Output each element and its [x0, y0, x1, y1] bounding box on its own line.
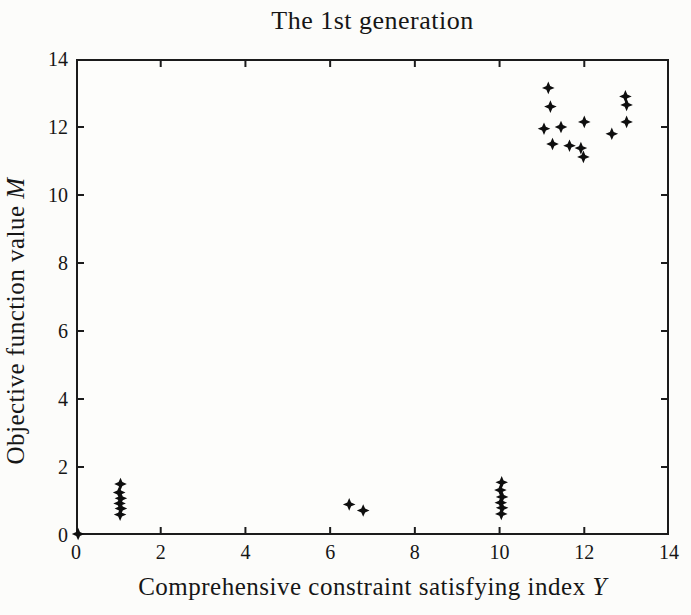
scatter-point [620, 116, 633, 129]
scatter-point [620, 99, 633, 112]
y-tick-label: 2 [28, 456, 68, 478]
scatter-point [563, 139, 576, 152]
scatter-point [343, 498, 356, 511]
chart-title: The 1st generation [76, 6, 669, 36]
x-tick-label: 10 [480, 541, 520, 563]
scatter-point [606, 128, 619, 141]
y-tick-label: 4 [28, 388, 68, 410]
scatter-point [578, 116, 591, 129]
scatter-point [114, 478, 127, 491]
x-axis-variable: Y [592, 573, 606, 600]
x-tick-label: 4 [225, 541, 265, 563]
y-axis-variable: M [2, 177, 29, 198]
scatter-point [357, 504, 370, 517]
scatter-point [495, 508, 508, 521]
plot-area [76, 59, 669, 535]
figure: The 1st generation Objective function va… [0, 0, 691, 615]
y-tick-label: 8 [28, 252, 68, 274]
scatter-point [542, 82, 555, 95]
scatter-point [619, 90, 632, 103]
y-tick-label: 6 [28, 320, 68, 342]
x-tick-label: 14 [649, 541, 689, 563]
y-tick-label: 0 [28, 524, 68, 546]
scatter-point [494, 484, 507, 497]
scatter-point [495, 476, 508, 489]
scatter-point [555, 121, 568, 134]
x-axis-label: Comprehensive constraint satisfying inde… [76, 573, 669, 601]
scatter-point [114, 508, 127, 521]
y-tick-label: 12 [28, 116, 68, 138]
y-axis-label-text: Objective function value [2, 205, 29, 464]
scatter-point [72, 528, 85, 541]
x-tick-label: 8 [395, 541, 435, 563]
x-tick-label: 6 [310, 541, 350, 563]
scatter-point [544, 100, 557, 113]
y-tick-label: 14 [28, 48, 68, 70]
x-tick-label: 2 [141, 541, 181, 563]
scatter-canvas [76, 59, 669, 535]
scatter-point [577, 151, 590, 164]
x-axis-label-text: Comprehensive constraint satisfying inde… [138, 573, 586, 600]
scatter-point [538, 122, 551, 135]
scatter-point [575, 142, 588, 155]
scatter-point [546, 138, 559, 151]
x-tick-label: 12 [564, 541, 604, 563]
y-tick-label: 10 [28, 184, 68, 206]
